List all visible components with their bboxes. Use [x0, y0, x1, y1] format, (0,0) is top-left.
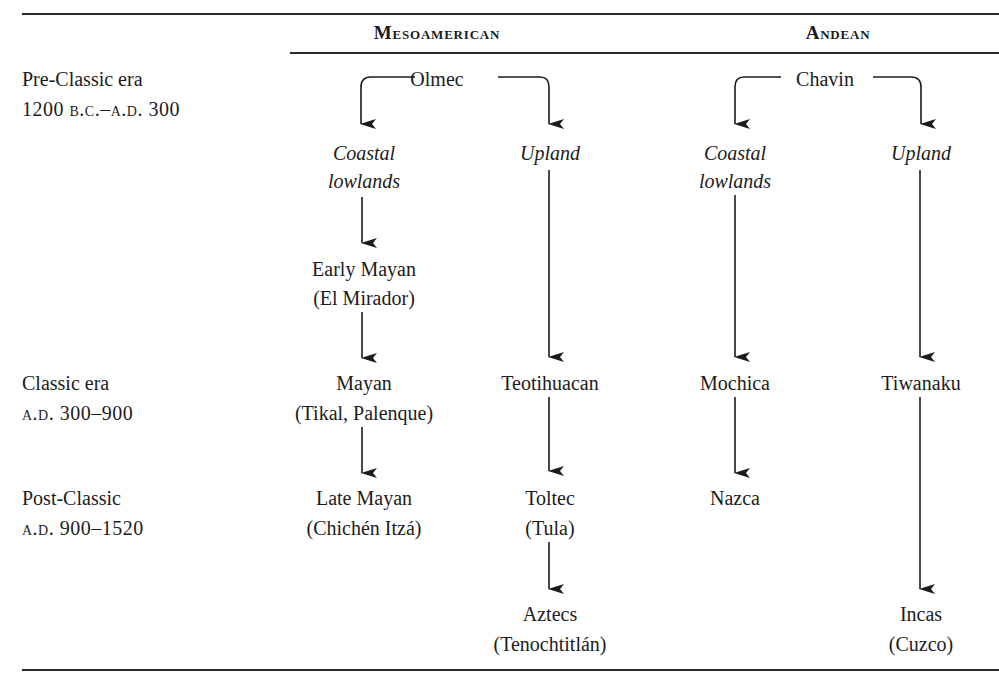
arrow-chavin-to-upland	[873, 77, 921, 124]
arrow-chavin-to-coastal	[735, 77, 781, 124]
arrow-olmec-to-upland	[498, 77, 549, 124]
arrows-layer	[0, 0, 999, 681]
arrow-olmec-to-coastal	[361, 77, 415, 124]
